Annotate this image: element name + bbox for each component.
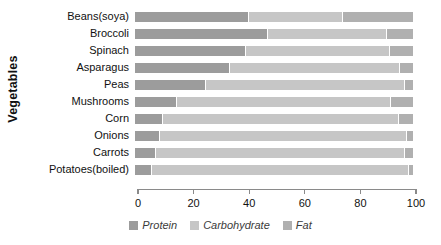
bar-row: Corn (24, 110, 420, 127)
bar-track (135, 97, 413, 107)
legend-swatch-icon (283, 221, 292, 230)
legend-label: Fat (296, 219, 312, 231)
plot-area: Beans(soya)BroccoliSpinachAsparagusPeasM… (24, 8, 420, 178)
bar-segment-fat (391, 97, 413, 107)
bar-segment-carbohydrate (160, 131, 407, 141)
bar-segment-fat (399, 114, 413, 124)
y-axis-title-label: Vegetables (6, 55, 20, 122)
category-label: Spinach (24, 45, 135, 56)
category-label: Mushrooms (24, 96, 135, 107)
bar-track (135, 80, 413, 90)
x-axis-tick-label: 100 (407, 197, 425, 209)
bar-segment-carbohydrate (177, 97, 391, 107)
legend-item[interactable]: Fat (283, 219, 312, 231)
category-label: Asparagus (24, 62, 135, 73)
bar-segment-fat (409, 165, 413, 175)
bar-segment-protein (135, 12, 249, 22)
bar-segment-carbohydrate (206, 80, 405, 90)
bar-segment-fat (400, 63, 413, 73)
category-label: Potatoes(boiled) (24, 164, 135, 175)
x-axis-tick-label: 40 (243, 197, 255, 209)
bar-row: Asparagus (24, 59, 420, 76)
bar-segment-carbohydrate (249, 12, 344, 22)
bar-segment-protein (135, 131, 160, 141)
category-label: Broccoli (24, 28, 135, 39)
bar-row: Potatoes(boiled) (24, 161, 420, 178)
legend-label: Carbohydrate (203, 219, 270, 231)
bar-segment-carbohydrate (163, 114, 399, 124)
stacked-bar-chart: Vegetables Beans(soya)BroccoliSpinachAsp… (0, 0, 441, 245)
legend-label: Protein (142, 219, 177, 231)
bar-segment-fat (405, 148, 413, 158)
category-label: Onions (24, 130, 135, 141)
bar-row: Spinach (24, 42, 420, 59)
bar-segment-carbohydrate (246, 46, 390, 56)
bar-segment-fat (405, 80, 413, 90)
bar-row: Beans(soya) (24, 8, 420, 25)
bar-segment-protein (135, 114, 163, 124)
bar-track (135, 114, 413, 124)
x-axis-tick (360, 189, 361, 194)
bar-segment-carbohydrate (230, 63, 400, 73)
bar-track (135, 46, 413, 56)
bar-row: Mushrooms (24, 93, 420, 110)
bar-row: Onions (24, 127, 420, 144)
x-axis-tick (249, 189, 250, 194)
bar-segment-fat (407, 131, 413, 141)
bar-track (135, 12, 413, 22)
x-axis-tick (415, 189, 416, 194)
bar-segment-fat (387, 29, 413, 39)
bar-segment-protein (135, 80, 206, 90)
bar-segment-protein (135, 97, 177, 107)
x-axis-tick-label: 20 (187, 197, 199, 209)
chart-legend: ProteinCarbohydrateFat (0, 219, 441, 231)
category-label: Carrots (24, 147, 135, 158)
bar-segment-fat (343, 12, 413, 22)
bar-segment-fat (390, 46, 413, 56)
bar-row: Peas (24, 76, 420, 93)
category-label: Beans(soya) (24, 11, 135, 22)
legend-swatch-icon (190, 221, 199, 230)
bar-segment-protein (135, 148, 156, 158)
legend-item[interactable]: Carbohydrate (190, 219, 270, 231)
x-axis: 020406080100 (135, 189, 419, 217)
bar-segment-protein (135, 46, 246, 56)
x-axis-line (138, 189, 416, 190)
x-axis-tick-label: 60 (299, 197, 311, 209)
legend-item[interactable]: Protein (129, 219, 177, 231)
bar-segment-carbohydrate (152, 165, 409, 175)
legend-swatch-icon (129, 221, 138, 230)
bar-row: Carrots (24, 144, 420, 161)
bar-track (135, 131, 413, 141)
bar-track (135, 165, 413, 175)
bar-segment-protein (135, 29, 268, 39)
bar-track (135, 148, 413, 158)
bar-segment-carbohydrate (156, 148, 405, 158)
x-axis-tick-label: 0 (135, 197, 141, 209)
category-label: Peas (24, 79, 135, 90)
x-axis-tick (304, 189, 305, 194)
x-axis-tick (137, 189, 138, 194)
bar-row: Broccoli (24, 25, 420, 42)
bar-track (135, 63, 413, 73)
bar-track (135, 29, 413, 39)
bar-segment-carbohydrate (268, 29, 386, 39)
x-axis-tick-label: 80 (354, 197, 366, 209)
bar-segment-protein (135, 165, 152, 175)
bar-segment-protein (135, 63, 230, 73)
x-axis-tick (193, 189, 194, 194)
category-label: Corn (24, 113, 135, 124)
y-axis-title: Vegetables (2, 0, 24, 178)
